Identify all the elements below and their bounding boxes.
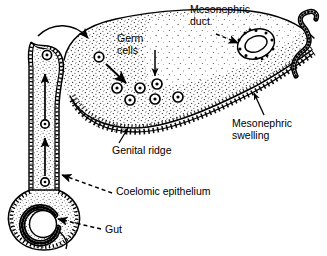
germ-cell-nucleus	[46, 54, 49, 57]
germ-cell-nucleus	[155, 82, 158, 85]
germ-cell-nucleus	[138, 86, 141, 89]
germ-cell	[133, 81, 146, 94]
mesonephric-swelling-leader	[254, 93, 264, 115]
germ-cell	[39, 176, 51, 188]
germ-cell	[150, 77, 163, 90]
germ-cell	[110, 81, 123, 94]
germ-cell	[39, 118, 51, 130]
germ-cell-nucleus	[153, 97, 156, 100]
label-genital-ridge: Genital ridge	[112, 145, 172, 157]
germ-cell	[93, 51, 106, 64]
gut-structure	[8, 190, 79, 250]
label-germ-cells: Germ cells	[117, 33, 143, 56]
coelomic-epithelium-leader	[62, 175, 112, 193]
label-gut: Gut	[105, 224, 122, 236]
germ-cell-nucleus	[97, 55, 100, 58]
germ-cell-nucleus	[115, 86, 118, 89]
label-coelomic-epithelium: Coelomic epithelium	[116, 186, 211, 198]
germ-cell	[148, 92, 161, 105]
germ-cell	[41, 49, 53, 61]
label-mesonephric-swelling: Mesonephric swelling	[232, 118, 292, 141]
germ-cell-nucleus	[44, 181, 47, 184]
germ-cell-nucleus	[176, 95, 179, 98]
germ-cell	[171, 90, 184, 103]
embryology-diagram-figure: Mesonephric duct Germ cells Mesonephric …	[0, 0, 327, 256]
label-mesonephric-duct: Mesonephric duct	[190, 4, 250, 27]
germ-cell	[123, 93, 136, 106]
germ-cell-nucleus	[128, 98, 131, 101]
germ-cell-nucleus	[44, 123, 47, 126]
